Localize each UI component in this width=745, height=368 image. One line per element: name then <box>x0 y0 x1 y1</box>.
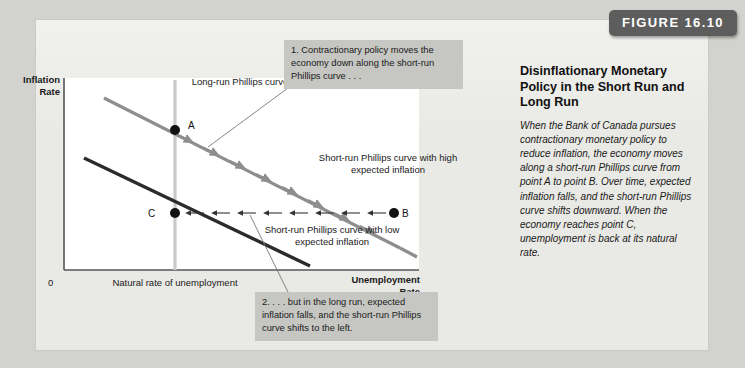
data-point-b <box>389 208 399 218</box>
data-point-a <box>170 125 180 135</box>
short-run-low-curve-label: Short-run Phillips curve with low expect… <box>262 224 402 248</box>
short-run-curve-low <box>84 158 310 266</box>
caption-title: Disinflationary Monetary Policy in the S… <box>520 64 696 111</box>
point-c-label: C <box>148 208 155 219</box>
long-run-curve-label: Long-run Phillips curve <box>190 76 290 88</box>
callout-1-leader <box>208 88 288 147</box>
natural-rate-label: Natural rate of unemployment <box>110 277 240 289</box>
origin-label: 0 <box>48 277 53 288</box>
y-axis-title: Inflation Rate <box>5 74 60 97</box>
point-b-label: B <box>402 208 409 219</box>
short-run-curve-high-tail <box>400 248 417 257</box>
callout-1: 1. Contractionary policy moves the econo… <box>284 40 463 89</box>
caption-panel: Disinflationary Monetary Policy in the S… <box>520 64 696 261</box>
callout-2: 2. . . . but in the long run, expected i… <box>255 292 438 341</box>
data-point-c <box>170 208 180 218</box>
x-axis-title-line1: Unemployment <box>351 274 420 285</box>
figure-page: FIGURE 16.10 <box>0 0 745 368</box>
y-axis-title-line2: Rate <box>39 86 60 97</box>
caption-body: When the Bank of Canada pursues contract… <box>520 119 696 261</box>
point-a-label: A <box>188 120 195 131</box>
y-axis-title-line1: Inflation <box>23 74 60 85</box>
short-run-high-curve-label: Short-run Phillips curve with high expec… <box>318 152 458 176</box>
